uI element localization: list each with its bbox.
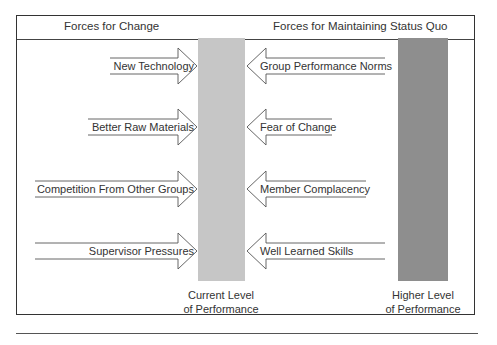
- higher-level-bar: [398, 38, 448, 281]
- current-level-bar: [198, 38, 245, 281]
- force-label: Competition From Other Groups: [37, 183, 195, 195]
- caption-line: of Performance: [171, 302, 271, 316]
- force-label: Supervisor Pressures: [89, 245, 195, 257]
- force-label: Member Complacency: [260, 183, 371, 195]
- caption-line: Current Level: [171, 288, 271, 302]
- force-label: Fear of Change: [260, 121, 336, 133]
- force-label: New Technology: [113, 60, 194, 72]
- caption-line: Higher Level: [373, 288, 473, 302]
- higher-level-caption: Higher Level of Performance: [373, 288, 473, 316]
- force-label: Better Raw Materials: [92, 121, 195, 133]
- current-level-caption: Current Level of Performance: [171, 288, 271, 316]
- force-label: Well Learned Skills: [260, 245, 354, 257]
- bottom-rule: [16, 333, 478, 334]
- caption-line: of Performance: [373, 302, 473, 316]
- force-label: Group Performance Norms: [260, 60, 393, 72]
